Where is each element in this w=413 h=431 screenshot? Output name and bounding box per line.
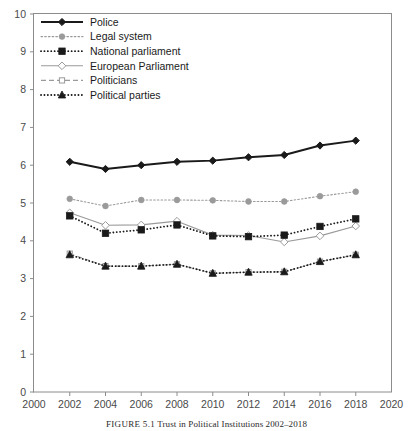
- data-point: [210, 233, 216, 239]
- data-point: [281, 199, 287, 205]
- x-axis-tick-label: 2016: [308, 398, 332, 410]
- x-axis-tick-label: 2010: [201, 398, 225, 410]
- x-axis-tick-label: 2004: [94, 398, 118, 410]
- x-axis-tick-label: 2012: [237, 398, 261, 410]
- data-point: [138, 227, 144, 233]
- data-point: [353, 216, 359, 222]
- legend-label: Politicians: [90, 74, 137, 86]
- data-point: [174, 222, 180, 228]
- x-axis-tick-label: 2018: [344, 398, 368, 410]
- data-point: [210, 197, 216, 203]
- y-axis-tick-label: 6: [20, 159, 26, 171]
- figure-container: 012345678910 200020022004200620082010201…: [0, 0, 413, 431]
- data-point: [59, 78, 64, 83]
- data-point: [353, 189, 359, 195]
- y-axis-tick-label: 1: [20, 348, 26, 360]
- legend-label: Police: [90, 16, 119, 28]
- data-point: [245, 233, 251, 239]
- figure-caption: FIGURE 5.1 Trust in Political Institutio…: [0, 418, 413, 431]
- data-point: [67, 213, 73, 219]
- x-axis-tick-label: 2006: [130, 398, 154, 410]
- data-point: [317, 193, 323, 199]
- data-point: [103, 203, 109, 209]
- y-axis-tick-label: 4: [20, 234, 26, 246]
- data-point: [102, 230, 108, 236]
- figure-caption-text: Trust in Political Institutions 2002–201…: [157, 419, 307, 429]
- legend-label: Political parties: [90, 89, 161, 101]
- y-axis-tick-label: 5: [20, 197, 26, 209]
- data-point: [246, 199, 252, 205]
- legend-label: European Parliament: [90, 60, 189, 72]
- data-point: [281, 232, 287, 238]
- x-axis-tick-label: 2008: [165, 398, 189, 410]
- x-axis-tick-label: 2014: [273, 398, 297, 410]
- y-axis-tick-label: 3: [20, 272, 26, 284]
- y-axis-tick-label: 10: [14, 8, 26, 20]
- legend-label: National parliament: [90, 45, 181, 57]
- data-point: [174, 197, 180, 203]
- data-point: [67, 196, 73, 202]
- y-axis-tick-label: 0: [20, 386, 26, 398]
- y-axis-tick-label: 2: [20, 310, 26, 322]
- y-axis-tick-label: 8: [20, 83, 26, 95]
- x-axis-tick-label: 2000: [22, 398, 46, 410]
- x-axis-tick-label: 2002: [58, 398, 82, 410]
- data-point: [317, 223, 323, 229]
- y-axis-tick-label: 7: [20, 121, 26, 133]
- data-point: [59, 34, 65, 40]
- trust-in-political-institutions-chart: 012345678910 200020022004200620082010201…: [0, 0, 413, 431]
- y-axis-tick-label: 9: [20, 45, 26, 57]
- figure-number: FIGURE 5.1: [106, 419, 155, 429]
- x-axis-tick-label: 2020: [380, 398, 404, 410]
- data-point: [138, 197, 144, 203]
- data-point: [59, 48, 65, 54]
- legend-label: Legal system: [90, 30, 152, 42]
